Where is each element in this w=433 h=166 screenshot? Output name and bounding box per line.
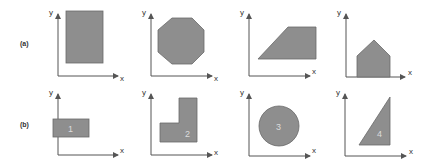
x-axis-label: x [214,74,218,83]
y-axis-label: y [49,8,53,17]
pentagon-house-shape [357,40,390,77]
octagon-shape [158,18,204,64]
y-axis-label: y [142,8,146,17]
row-label-b: (b) [20,121,29,129]
panel-b3: y x 3 [240,88,316,156]
y-axis-label: y [240,8,244,17]
l-shape [160,98,197,142]
x-axis-label: x [408,68,412,77]
row-label-a: (a) [20,40,29,48]
y-axis-label: y [240,88,244,97]
y-axis-label: y [142,88,146,97]
x-axis-label: x [409,147,413,156]
rectangle-shape [66,11,103,63]
shape-number: 3 [276,122,281,132]
shape-number: 1 [68,124,73,134]
panel-a3: y x [240,8,316,76]
shapes-figure: (a) (b) y x y x y x y x y x [0,0,433,166]
y-axis-label: y [337,8,341,17]
shape-number: 4 [377,129,382,139]
panel-a1: y x [49,8,124,83]
trapezoid-shape [258,27,316,59]
x-axis-label: x [120,74,124,83]
y-axis-label: y [49,88,53,97]
panel-a4: y x [337,8,412,77]
shape-number: 2 [185,129,190,139]
panel-b2: y x 2 [142,88,218,157]
panel-b4: y x 4 [336,88,413,156]
x-axis-label: x [312,146,316,155]
right-triangle-shape [359,97,390,145]
x-axis-label: x [214,148,218,157]
y-axis-label: y [336,88,340,97]
x-axis-label: x [312,67,316,76]
panel-b1: y x 1 [49,88,124,155]
x-axis-label: x [120,146,124,155]
panel-a2: y x [142,8,218,83]
